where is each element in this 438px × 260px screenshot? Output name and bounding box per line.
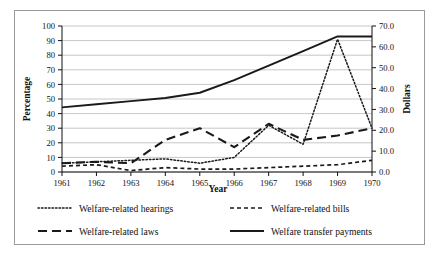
y-axis-left-ticks <box>58 26 62 172</box>
y2-tick-label: 60.0 <box>379 42 394 52</box>
x-tick-label: 1964 <box>157 178 175 188</box>
y-tick-label: 60 <box>46 80 55 90</box>
y-tick-label: 50 <box>46 94 55 104</box>
legend-label: Welfare transfer payments <box>271 226 372 237</box>
x-tick-label: 1967 <box>260 178 278 188</box>
x-tick-label: 1970 <box>363 178 380 188</box>
y-tick-label: 40 <box>46 109 55 119</box>
series-line <box>62 36 372 107</box>
y2-tick-label: 20.0 <box>379 125 394 135</box>
y2-tick-label: 10.0 <box>379 146 394 156</box>
y-tick-label: 30 <box>46 123 55 133</box>
x-axis-title: Year <box>209 184 229 194</box>
x-tick-label: 1968 <box>295 178 312 188</box>
y2-tick-label: 70.0 <box>379 21 394 31</box>
y-axis-left-title: Percentage <box>22 77 32 122</box>
grid-lines <box>62 26 372 172</box>
figure-root: 1961196219631964196519661967196819691970… <box>0 0 438 260</box>
y2-tick-label: 30.0 <box>379 105 394 115</box>
legend-label: Welfare-related hearings <box>79 203 174 214</box>
y-axis-right-ticks <box>372 26 376 172</box>
y-axis-right-title: Dollars <box>402 84 412 114</box>
data-series-group <box>62 36 372 170</box>
series-line <box>62 39 372 163</box>
x-tick-label: 1962 <box>88 178 105 188</box>
x-axis-ticks <box>62 172 372 176</box>
y2-tick-label: 0.0 <box>379 167 390 177</box>
y-axis-right-tick-labels: 0.010.020.030.040.050.060.070.0 <box>379 21 394 177</box>
y-tick-label: 70 <box>46 65 55 75</box>
y-tick-label: 10 <box>46 153 55 163</box>
y2-tick-label: 40.0 <box>379 84 394 94</box>
legend-label: Welfare-related bills <box>271 203 350 214</box>
y-tick-label: 100 <box>42 21 55 31</box>
legend-label: Welfare-related laws <box>79 226 159 237</box>
x-tick-label: 1963 <box>122 178 139 188</box>
x-tick-label: 1961 <box>53 178 70 188</box>
x-tick-label: 1965 <box>191 178 208 188</box>
y-tick-label: 0 <box>51 167 55 177</box>
x-tick-label: 1966 <box>226 178 244 188</box>
y-axis-left-tick-labels: 0102030405060708090100 <box>42 21 55 177</box>
y-tick-label: 90 <box>46 36 55 46</box>
y-tick-label: 80 <box>46 50 55 60</box>
line-chart: 1961196219631964196519661967196819691970… <box>0 0 438 260</box>
y-tick-label: 20 <box>46 138 55 148</box>
y2-tick-label: 50.0 <box>379 63 394 73</box>
x-tick-label: 1969 <box>329 178 346 188</box>
chart-legend: Welfare-related hearingsWelfare-related … <box>38 203 372 237</box>
